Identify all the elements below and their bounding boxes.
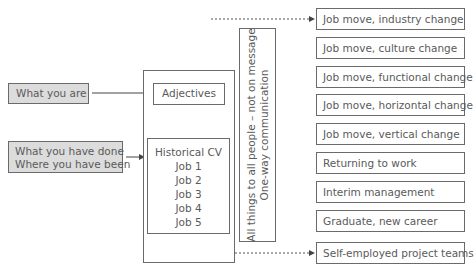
- career-move-label: Self-employed project teams: [323, 247, 474, 260]
- what-you-have-done-box: What you have done Where you have been: [8, 141, 123, 173]
- career-move-box: Job move, functional change: [316, 66, 465, 88]
- adjectives-label: Adjectives: [154, 87, 224, 100]
- career-move-box: Job move, culture change: [316, 37, 465, 59]
- historical-cv-label: Historical CV Job 1 Job 2 Job 3 Job 4 Jo…: [148, 145, 229, 229]
- what-you-are-box: What you are: [8, 83, 89, 104]
- adjectives-box: Adjectives: [153, 83, 225, 105]
- career-move-label: Job move, vertical change: [323, 128, 460, 141]
- communication-note-box: All things to all people – not on messag…: [239, 28, 276, 242]
- career-move-label: Interim management: [323, 186, 434, 199]
- historical-cv-box: Historical CV Job 1 Job 2 Job 3 Job 4 Jo…: [147, 138, 230, 234]
- career-move-label: Job move, culture change: [323, 42, 457, 55]
- what-you-are-label: What you are: [16, 87, 87, 100]
- career-move-label: Graduate, new career: [323, 215, 437, 228]
- career-move-box: Graduate, new career: [316, 210, 465, 232]
- career-move-label: Job move, functional change: [323, 71, 473, 84]
- career-move-label: Job move, horizontal change: [323, 99, 473, 112]
- career-move-box: Self-employed project teams: [316, 242, 465, 264]
- career-move-label: Job move, industry change: [323, 13, 464, 26]
- career-move-box: Interim management: [316, 181, 465, 203]
- career-move-box: Job move, industry change: [316, 8, 465, 30]
- what-you-have-done-label: What you have done Where you have been: [15, 145, 130, 171]
- career-move-label: Returning to work: [323, 157, 417, 170]
- career-move-box: Job move, vertical change: [316, 123, 465, 145]
- communication-note-label: All things to all people – not on messag…: [245, 28, 271, 241]
- career-move-box: Job move, horizontal change: [316, 94, 465, 116]
- career-move-box: Returning to work: [316, 152, 465, 174]
